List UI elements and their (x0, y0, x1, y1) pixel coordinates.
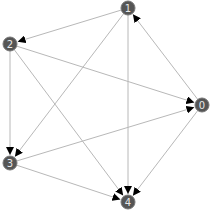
node-label: 0 (199, 100, 205, 111)
edge-0-to-1 (133, 14, 198, 99)
nodes-layer: 01234 (3, 1, 209, 209)
node-3: 3 (3, 156, 17, 170)
node-label: 1 (125, 3, 131, 14)
edge-1-to-3 (15, 14, 124, 157)
node-4: 4 (121, 195, 135, 209)
directed-graph: 01234 (0, 0, 210, 212)
node-0: 0 (195, 98, 209, 112)
edge-2-to-0 (17, 46, 195, 102)
node-2: 2 (3, 37, 17, 51)
node-label: 3 (7, 158, 13, 169)
node-1: 1 (121, 1, 135, 15)
node-label: 2 (7, 39, 13, 50)
edges-layer (10, 10, 198, 199)
node-label: 4 (125, 197, 131, 208)
edge-3-to-0 (17, 107, 195, 161)
edge-2-to-4 (14, 50, 123, 196)
